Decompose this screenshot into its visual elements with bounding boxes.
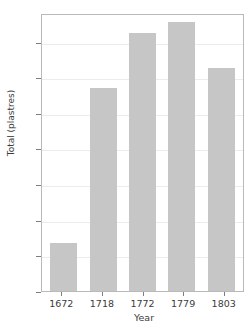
x-tick-label: 1779 bbox=[161, 298, 205, 309]
bar bbox=[50, 243, 77, 291]
bar bbox=[90, 88, 117, 291]
bar bbox=[168, 22, 195, 291]
x-tick-label: 1672 bbox=[39, 298, 83, 309]
plot-area bbox=[41, 14, 244, 292]
bar bbox=[208, 68, 235, 291]
x-tick-label: 1718 bbox=[80, 298, 124, 309]
x-tick-label: 1803 bbox=[202, 298, 246, 309]
x-axis-ticks: 16721718177217791803 bbox=[41, 292, 244, 312]
x-tick-label: 1772 bbox=[121, 298, 165, 309]
bar-chart-figure: Total (plastres) 0K20K40K60K80K100K120K1… bbox=[0, 0, 248, 328]
bar bbox=[129, 33, 156, 291]
x-tick-mark bbox=[224, 292, 225, 296]
x-axis-label: Year bbox=[40, 312, 248, 323]
x-tick-mark bbox=[183, 292, 184, 296]
x-tick-mark bbox=[102, 292, 103, 296]
bar-series bbox=[42, 15, 243, 291]
x-tick-mark bbox=[143, 292, 144, 296]
x-tick-mark bbox=[61, 292, 62, 296]
